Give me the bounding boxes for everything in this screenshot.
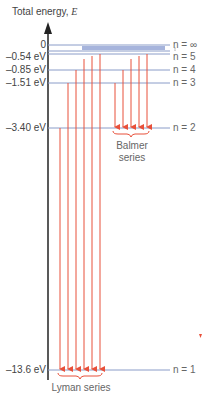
balmer-label-line1: Balmer xyxy=(112,140,152,152)
balmer-arrows xyxy=(115,54,147,127)
axis-arrow-icon xyxy=(44,22,52,34)
lyman-brace xyxy=(58,373,102,379)
energy-label-n5: –0.54 eV xyxy=(6,51,46,62)
lyman-series-label: Lyman series xyxy=(50,382,112,394)
energy-label-n4: –0.85 eV xyxy=(6,64,46,75)
balmer-label-line2: series xyxy=(112,152,152,164)
lyman-arrows xyxy=(60,54,100,369)
energy-label-0: 0 xyxy=(40,39,46,50)
level-label-2: n = 2 xyxy=(173,122,196,133)
level-label-4: n = 4 xyxy=(173,64,196,75)
level-label-1: n = 1 xyxy=(173,364,196,375)
energy-levels xyxy=(48,45,170,370)
balmer-brace xyxy=(113,131,149,137)
level-label-5: n = 5 xyxy=(173,51,196,62)
level-label-3: n = 3 xyxy=(173,77,196,88)
level-label-inf: n = ∞ xyxy=(173,39,197,50)
energy-label-n3: –1.51 eV xyxy=(6,77,46,88)
energy-label-n2: –3.40 eV xyxy=(6,122,46,133)
energy-label-n1: –13.6 eV xyxy=(6,364,46,375)
balmer-series-label: Balmer series xyxy=(112,140,152,164)
stray-arrow-icon xyxy=(199,334,202,338)
